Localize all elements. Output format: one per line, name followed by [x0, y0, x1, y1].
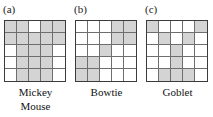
polyomino-figure: (a) Mickey Mouse (b) Bowtie (c) Goblet — [0, 0, 213, 117]
grid-cell — [124, 69, 136, 81]
grid-cell — [88, 69, 100, 81]
grid-cell — [159, 33, 171, 45]
grid-cell — [124, 33, 136, 45]
grid-cell — [100, 33, 112, 45]
grid-cell — [88, 33, 100, 45]
grid-cell — [76, 33, 88, 45]
caption-goblet: Goblet — [142, 85, 213, 99]
grid-cell — [29, 57, 41, 69]
caption-mickey-mouse: Mickey Mouse — [0, 85, 71, 113]
grid-cell — [171, 69, 183, 81]
grid-cell — [88, 57, 100, 69]
caption-line-1: Goblet — [163, 86, 193, 98]
grid-cell — [29, 45, 41, 57]
panel-letter-b: (b) — [74, 3, 87, 15]
grid-cell — [5, 33, 17, 45]
grid-cell — [53, 69, 65, 81]
grid-cell — [195, 45, 207, 57]
grid-cell — [76, 45, 88, 57]
grid-cell — [159, 21, 171, 33]
grid-cell — [88, 45, 100, 57]
grid-cell — [17, 69, 29, 81]
grid-cell — [147, 21, 159, 33]
grid-cell — [124, 57, 136, 69]
grid-cell — [124, 45, 136, 57]
grid-cell — [41, 57, 53, 69]
grid-cell — [29, 69, 41, 81]
grid-cell — [17, 33, 29, 45]
grid-cell — [5, 57, 17, 69]
panel-letter-a: (a) — [3, 3, 15, 15]
grid-cell — [183, 33, 195, 45]
grid-cell — [41, 69, 53, 81]
grid-cell — [100, 21, 112, 33]
grid-cell — [100, 57, 112, 69]
grid-cell — [195, 33, 207, 45]
grid-cell — [17, 45, 29, 57]
grid-cell — [147, 57, 159, 69]
grid-cell — [147, 45, 159, 57]
grid-cell — [112, 57, 124, 69]
grid-cell — [171, 33, 183, 45]
grid-cell — [29, 33, 41, 45]
grid-bowtie — [75, 20, 137, 82]
grid-cell — [29, 21, 41, 33]
grid-cell — [53, 45, 65, 57]
grid-cell — [17, 57, 29, 69]
panel-b: (b) Bowtie — [71, 0, 142, 117]
grid-cell — [53, 33, 65, 45]
grid-cell — [183, 21, 195, 33]
grid-cell — [76, 21, 88, 33]
grid-cell — [5, 21, 17, 33]
panel-letter-c: (c) — [145, 3, 157, 15]
grid-cell — [76, 57, 88, 69]
grid-cell — [171, 45, 183, 57]
grid-cell — [171, 21, 183, 33]
grid-cell — [195, 57, 207, 69]
caption-bowtie: Bowtie — [71, 85, 142, 99]
grid-cell — [159, 69, 171, 81]
grid-cell — [5, 69, 17, 81]
grid-cell — [195, 69, 207, 81]
grid-cell — [53, 57, 65, 69]
grid-cell — [147, 69, 159, 81]
caption-line-1: Bowtie — [91, 86, 123, 98]
panel-a: (a) Mickey Mouse — [0, 0, 71, 117]
grid-cell — [112, 33, 124, 45]
grid-cell — [112, 45, 124, 57]
grid-cell — [195, 21, 207, 33]
grid-cell — [5, 45, 17, 57]
grid-cell — [183, 57, 195, 69]
grid-cell — [53, 21, 65, 33]
grid-cell — [88, 21, 100, 33]
grid-goblet — [146, 20, 208, 82]
grid-cell — [41, 45, 53, 57]
panel-c: (c) Goblet — [142, 0, 213, 117]
grid-cell — [183, 69, 195, 81]
grid-cell — [112, 21, 124, 33]
grid-cell — [112, 69, 124, 81]
grid-cell — [76, 69, 88, 81]
grid-cell — [100, 45, 112, 57]
grid-cell — [124, 21, 136, 33]
grid-cell — [41, 21, 53, 33]
grid-cell — [41, 33, 53, 45]
grid-cell — [159, 45, 171, 57]
grid-mickey-mouse — [4, 20, 66, 82]
caption-line-1: Mickey — [19, 86, 53, 98]
grid-cell — [147, 33, 159, 45]
grid-cell — [183, 45, 195, 57]
grid-cell — [171, 57, 183, 69]
grid-cell — [17, 21, 29, 33]
grid-cell — [159, 57, 171, 69]
grid-cell — [100, 69, 112, 81]
caption-line-2: Mouse — [0, 99, 71, 113]
